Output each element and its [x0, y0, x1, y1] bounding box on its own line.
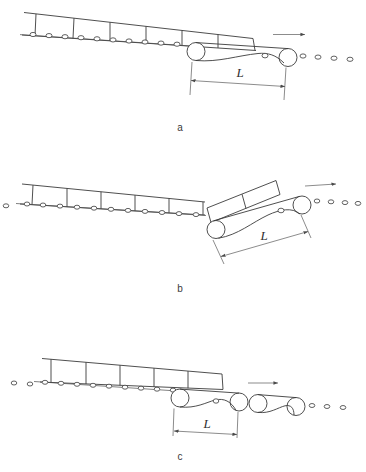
panel-c-belt-unit-1 — [171, 389, 248, 411]
panel-c: L c — [11, 359, 346, 463]
panel-c-load — [40, 359, 223, 390]
panel-b-dimension-L: L — [213, 215, 311, 264]
panel-a-dimension-label: L — [235, 65, 243, 80]
panel-a-pulley-right — [279, 49, 297, 67]
panel-b-pulley-left — [207, 221, 225, 239]
panel-a-load — [22, 13, 256, 51]
right-arrow-icon — [305, 184, 336, 186]
panel-a-pulley-left — [187, 43, 205, 61]
panel-b-snub-roller — [278, 208, 284, 213]
panel-c-snub-roller-1 — [213, 399, 219, 403]
panel-b: L b — [3, 181, 361, 295]
panel-a-snub-roller — [262, 53, 268, 58]
panel-c-pulley-1-right — [230, 393, 248, 411]
panel-b-flow-arrow — [305, 184, 336, 186]
figure-canvas: L a — [0, 0, 366, 472]
panel-c-roller-conveyor — [11, 380, 185, 392]
panel-c-pulley-2-right — [287, 398, 305, 416]
panel-c-pulley-2-left — [249, 395, 267, 413]
panel-a-caption: a — [177, 122, 183, 133]
panel-c-caption: c — [178, 451, 183, 462]
panel-c-dimension-label: L — [202, 416, 210, 431]
conveyor-transfer-figure: L a — [0, 0, 366, 472]
panel-b-belt-unit — [207, 196, 311, 239]
panel-b-load-tilted — [207, 181, 280, 223]
panel-b-dimension-label: L — [259, 228, 267, 243]
panel-a: L a — [20, 13, 353, 134]
panel-c-dimension-L: L — [173, 409, 238, 439]
panel-b-roller-conveyor — [3, 202, 206, 217]
panel-a-belt-unit — [187, 43, 297, 67]
panel-c-pulley-1-left — [171, 389, 189, 407]
panel-b-caption: b — [177, 283, 183, 294]
panel-c-belt-unit-2 — [249, 395, 305, 416]
panel-b-downstream-rollers — [314, 199, 361, 205]
panel-a-dimension-L: L — [190, 62, 286, 100]
panel-a-downstream-rollers — [300, 54, 353, 62]
panel-c-downstream-rollers — [309, 404, 346, 410]
